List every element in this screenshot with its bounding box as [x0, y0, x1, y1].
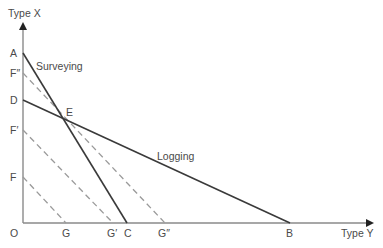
point-f1-label: F′ [10, 124, 18, 136]
point-f-label: F [10, 171, 16, 183]
point-f2-label: F″ [10, 67, 20, 79]
point-d-label: D [10, 94, 18, 106]
x-axis-label: Type Y [341, 227, 374, 239]
point-g-label: G [62, 227, 70, 239]
dashed-line-f1-g1 [23, 130, 113, 223]
point-g1-label: G′ [107, 227, 117, 239]
point-g2-label: G″ [158, 227, 170, 239]
surveying-line [23, 53, 127, 223]
point-a-label: A [10, 47, 17, 59]
point-b-label: B [286, 227, 293, 239]
surveying-label: Surveying [36, 60, 83, 72]
y-axis-label: Type X [8, 7, 41, 19]
dashed-line-f-g [23, 177, 66, 223]
point-c-label: C [124, 227, 132, 239]
logging-label: Logging [157, 150, 195, 162]
point-e-label: E [66, 106, 73, 118]
production-possibility-diagram: Type X Type Y A F″ D F′ F O G G′ C G″ B … [0, 0, 383, 248]
origin-label: O [10, 227, 18, 239]
